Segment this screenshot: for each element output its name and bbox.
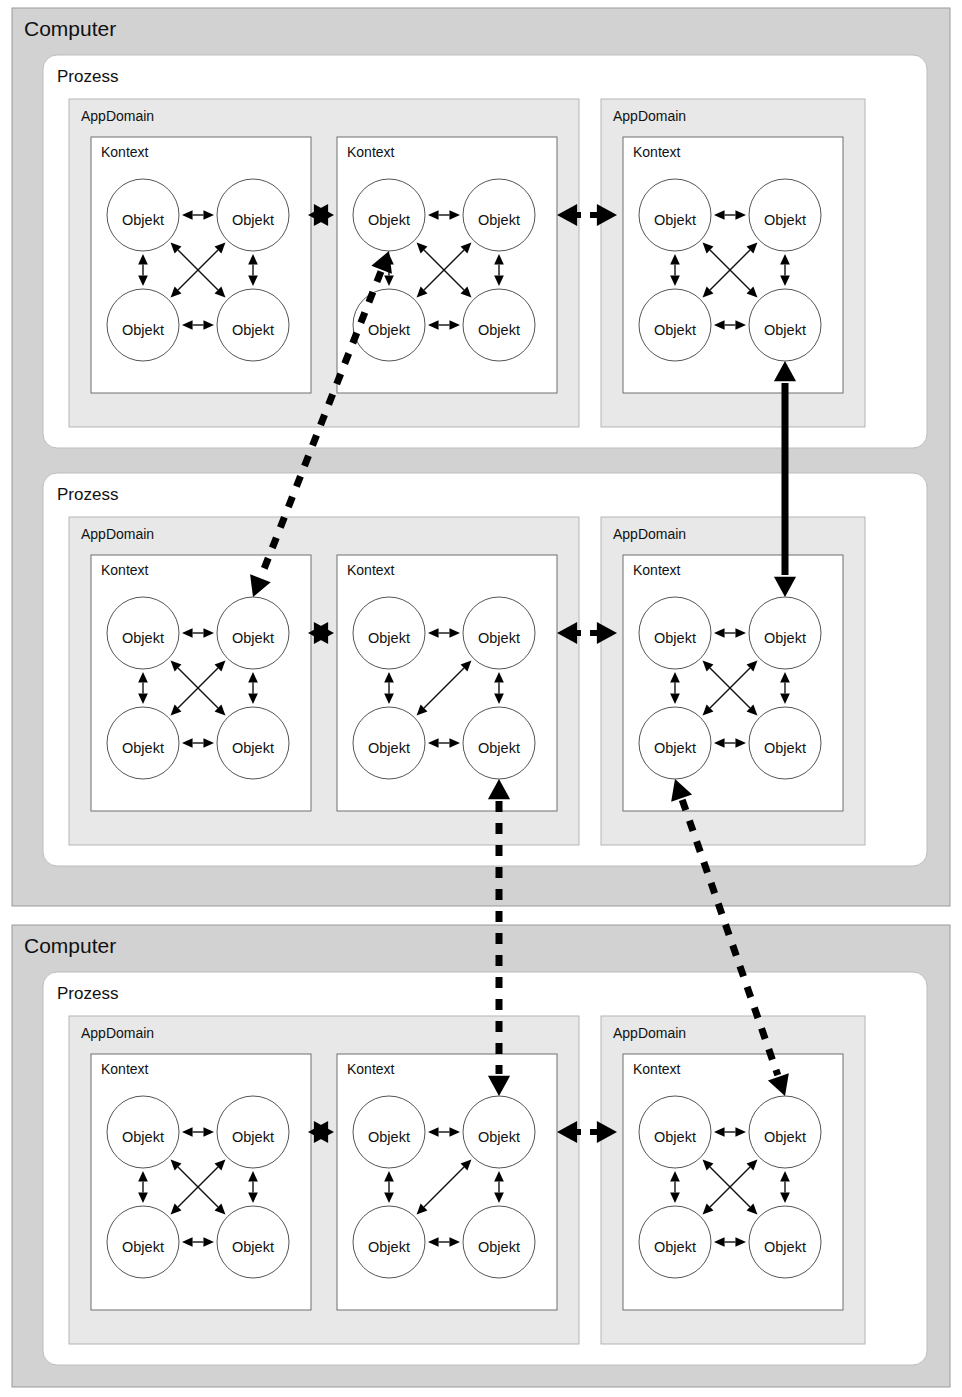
objekt-node[interactable]: Objekt (217, 179, 289, 251)
kontext-left-2-label: Kontext (347, 562, 395, 578)
appdomain-right: AppDomainKontextObjektObjektObjektObjekt (601, 517, 865, 845)
objekt-node[interactable]: Objekt (217, 597, 289, 669)
objekt-node[interactable]: Objekt (353, 289, 425, 361)
objekt-label: Objekt (478, 740, 520, 756)
objekt-node[interactable]: Objekt (107, 179, 179, 251)
objekt-label: Objekt (654, 212, 696, 228)
computer-1-label: Computer (24, 17, 116, 40)
objekt-node[interactable]: Objekt (749, 707, 821, 779)
objekt-label: Objekt (122, 322, 164, 338)
kontext-left-1-label: Kontext (101, 1061, 149, 1077)
appdomain-right: AppDomainKontextObjektObjektObjektObjekt (601, 1016, 865, 1344)
objekt-node[interactable]: Objekt (107, 707, 179, 779)
objekt-node[interactable]: Objekt (217, 707, 289, 779)
objekt-label: Objekt (478, 322, 520, 338)
kontext-left-2: KontextObjektObjektObjektObjekt (337, 137, 557, 393)
kontext-left-1-label: Kontext (101, 562, 149, 578)
kontext-left-2: KontextObjektObjektObjektObjekt (337, 555, 557, 811)
objekt-node[interactable]: Objekt (749, 289, 821, 361)
objekt-node[interactable]: Objekt (463, 597, 535, 669)
kontext-left-2-label: Kontext (347, 144, 395, 160)
kontext-left-1-label: Kontext (101, 144, 149, 160)
objekt-node[interactable]: Objekt (749, 1206, 821, 1278)
objekt-label: Objekt (654, 1129, 696, 1145)
objekt-label: Objekt (232, 1129, 274, 1145)
objekt-node[interactable]: Objekt (107, 597, 179, 669)
prozess-2: ProzessAppDomainKontextObjektObjektObjek… (43, 473, 927, 866)
appdomain-right-label: AppDomain (613, 526, 686, 542)
prozess-3-label: Prozess (57, 984, 118, 1003)
objekt-label: Objekt (654, 740, 696, 756)
objekt-label: Objekt (368, 740, 410, 756)
objekt-node[interactable]: Objekt (749, 597, 821, 669)
objekt-label: Objekt (654, 322, 696, 338)
objekt-node[interactable]: Objekt (639, 289, 711, 361)
objekt-label: Objekt (122, 1239, 164, 1255)
objekt-label: Objekt (654, 630, 696, 646)
objekt-label: Objekt (654, 1239, 696, 1255)
objekt-label: Objekt (764, 740, 806, 756)
objekt-node[interactable]: Objekt (639, 1096, 711, 1168)
objekt-label: Objekt (368, 322, 410, 338)
objekt-node[interactable]: Objekt (353, 179, 425, 251)
objekt-label: Objekt (764, 322, 806, 338)
objekt-label: Objekt (764, 630, 806, 646)
objekt-node[interactable]: Objekt (107, 1096, 179, 1168)
objekt-node[interactable]: Objekt (639, 179, 711, 251)
prozess-1: ProzessAppDomainKontextObjektObjektObjek… (43, 55, 927, 448)
kontext-right-1-label: Kontext (633, 562, 681, 578)
objekt-label: Objekt (232, 1239, 274, 1255)
objekt-label: Objekt (478, 212, 520, 228)
objekt-node[interactable]: Objekt (217, 289, 289, 361)
objekt-node[interactable]: Objekt (217, 1096, 289, 1168)
objekt-node[interactable]: Objekt (749, 1096, 821, 1168)
objekt-label: Objekt (232, 212, 274, 228)
objekt-node[interactable]: Objekt (217, 1206, 289, 1278)
objekt-label: Objekt (122, 630, 164, 646)
kontext-right-1-label: Kontext (633, 1061, 681, 1077)
objekt-label: Objekt (122, 1129, 164, 1145)
objekt-label: Objekt (478, 1129, 520, 1145)
objekt-node[interactable]: Objekt (749, 179, 821, 251)
objekt-node[interactable]: Objekt (353, 707, 425, 779)
kontext-right-1: KontextObjektObjektObjektObjekt (623, 137, 843, 393)
objekt-label: Objekt (368, 212, 410, 228)
objekt-label: Objekt (368, 1129, 410, 1145)
prozess-3: ProzessAppDomainKontextObjektObjektObjek… (43, 972, 927, 1365)
kontext-left-2-label: Kontext (347, 1061, 395, 1077)
objekt-label: Objekt (478, 1239, 520, 1255)
kontext-right-1-label: Kontext (633, 144, 681, 160)
objekt-node[interactable]: Objekt (463, 1206, 535, 1278)
appdomain-left-label: AppDomain (81, 1025, 154, 1041)
objekt-node[interactable]: Objekt (463, 179, 535, 251)
kontext-right-1: KontextObjektObjektObjektObjekt (623, 555, 843, 811)
appdomain-left-label: AppDomain (81, 526, 154, 542)
kontext-right-1: KontextObjektObjektObjektObjekt (623, 1054, 843, 1310)
objekt-node[interactable]: Objekt (639, 707, 711, 779)
kontext-left-1: KontextObjektObjektObjektObjekt (91, 137, 311, 393)
objekt-node[interactable]: Objekt (639, 1206, 711, 1278)
kontext-left-1: KontextObjektObjektObjektObjekt (91, 555, 311, 811)
objekt-node[interactable]: Objekt (353, 1096, 425, 1168)
appdomain-left-label: AppDomain (81, 108, 154, 124)
objekt-label: Objekt (232, 322, 274, 338)
prozess-2-label: Prozess (57, 485, 118, 504)
objekt-node[interactable]: Objekt (353, 597, 425, 669)
objekt-label: Objekt (368, 630, 410, 646)
objekt-node[interactable]: Objekt (463, 1096, 535, 1168)
objekt-node[interactable]: Objekt (463, 707, 535, 779)
prozess-1-label: Prozess (57, 67, 118, 86)
objekt-node[interactable]: Objekt (463, 289, 535, 361)
objekt-label: Objekt (478, 630, 520, 646)
objekt-label: Objekt (232, 740, 274, 756)
objekt-node[interactable]: Objekt (639, 597, 711, 669)
objekt-label: Objekt (764, 1129, 806, 1145)
objekt-node[interactable]: Objekt (107, 1206, 179, 1278)
objekt-node[interactable]: Objekt (353, 1206, 425, 1278)
objekt-label: Objekt (764, 212, 806, 228)
objekt-node[interactable]: Objekt (107, 289, 179, 361)
objekt-label: Objekt (232, 630, 274, 646)
objekt-label: Objekt (368, 1239, 410, 1255)
objekt-label: Objekt (122, 740, 164, 756)
computer-2-label: Computer (24, 934, 116, 957)
